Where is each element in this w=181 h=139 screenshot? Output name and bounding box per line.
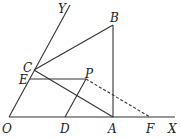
point-label-P: P — [84, 67, 94, 81]
segment-CA — [34, 70, 113, 117]
segment-CB — [34, 25, 113, 70]
segment-OY — [9, 5, 70, 117]
point-label-E: E — [18, 73, 28, 87]
point-label-D: D — [59, 122, 70, 136]
segment-PF — [86, 79, 150, 117]
diagram-canvas: OXYBCEPDAF — [0, 0, 181, 139]
labels-group: OXYBCEPDAF — [2, 2, 177, 136]
segment-DP — [65, 79, 86, 117]
point-label-F: F — [145, 122, 155, 136]
point-label-X: X — [167, 122, 177, 136]
point-label-O: O — [2, 122, 12, 136]
point-label-B: B — [109, 11, 119, 25]
geometry-diagram: OXYBCEPDAF — [0, 0, 181, 139]
point-label-Y: Y — [58, 2, 67, 16]
point-label-A: A — [107, 122, 117, 136]
segments-group — [9, 5, 175, 117]
